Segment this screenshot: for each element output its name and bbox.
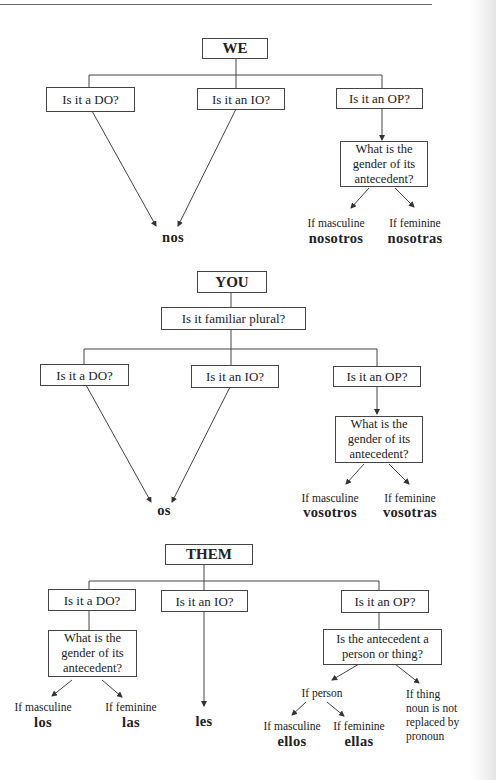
them-answer-los: los — [8, 714, 78, 730]
we-if-feminine: If feminine — [382, 217, 448, 230]
we-title-box: WE — [202, 38, 268, 59]
them-title: THEM — [186, 547, 232, 562]
you-familiar-question-box: Is it familiar plural? — [161, 307, 306, 330]
you-op-question-box: Is it an OP? — [333, 366, 421, 387]
them-op-question-box: Is it an OP? — [341, 590, 429, 613]
we-do-question-box: Is it a DO? — [46, 87, 135, 112]
you-answer-vosotras: vosotras — [377, 504, 443, 520]
them-op-question: Is it an OP? — [354, 594, 415, 609]
we-op-question-box: Is it an OP? — [336, 88, 423, 109]
you-do-question-box: Is it a DO? — [40, 364, 129, 386]
them-answer-ellos: ellos — [258, 733, 326, 749]
we-if-masculine: If masculine — [302, 217, 370, 230]
you-gender-question-box: What is the gender of its antecedent? — [335, 416, 423, 463]
we-answer-nos: nos — [150, 229, 196, 245]
them-io-question-box: Is it an IO? — [161, 590, 248, 612]
we-do-question: Is it a DO? — [62, 92, 119, 107]
them-answer-las: las — [98, 714, 164, 730]
we-gender-question-box: What is the gender of its antecedent? — [340, 141, 428, 187]
you-answer-vosotros: vosotros — [296, 504, 364, 520]
them-if-thing: If thing — [406, 688, 440, 701]
them-answer-les: les — [183, 713, 225, 729]
them-thing-note: noun is not replaced by pronoun — [406, 701, 459, 743]
you-familiar-question: Is it familiar plural? — [182, 311, 286, 326]
we-gender-question: What is the gender of its antecedent? — [353, 142, 415, 187]
them-do-question-box: Is it a DO? — [48, 589, 136, 611]
them-answer-ellas: ellas — [328, 733, 390, 749]
them-do-if-feminine: If feminine — [98, 701, 164, 714]
them-gender-question: What is the gender of its antecedent? — [61, 631, 123, 676]
you-op-question: Is it an OP? — [346, 369, 407, 384]
you-title-box: YOU — [197, 271, 267, 293]
you-io-question-box: Is it an IO? — [191, 365, 279, 388]
we-io-question: Is it an IO? — [212, 92, 270, 107]
them-op-if-masculine: If masculine — [258, 720, 326, 733]
them-gender-question-box: What is the gender of its antecedent? — [48, 630, 137, 677]
you-io-question: Is it an IO? — [206, 369, 264, 384]
we-answer-nosotros: nosotros — [302, 230, 370, 246]
we-answer-nosotras: nosotras — [382, 230, 448, 246]
you-title: YOU — [215, 275, 248, 290]
we-op-question: Is it an OP? — [349, 91, 410, 106]
them-do-question: Is it a DO? — [64, 593, 121, 608]
you-answer-os: os — [141, 502, 187, 518]
you-do-question: Is it a DO? — [56, 368, 113, 383]
them-op-if-feminine: If feminine — [328, 720, 390, 733]
them-title-box: THEM — [165, 544, 253, 565]
them-person-thing-question: Is the antecedent a person or thing? — [336, 632, 429, 662]
them-person-thing-question-box: Is the antecedent a person or thing? — [323, 629, 442, 665]
we-title: WE — [222, 41, 247, 56]
we-io-question-box: Is it an IO? — [197, 88, 285, 110]
you-gender-question: What is the gender of its antecedent? — [348, 417, 410, 462]
them-io-question: Is it an IO? — [175, 594, 233, 609]
them-do-if-masculine: If masculine — [8, 701, 78, 714]
them-if-person: If person — [292, 687, 352, 700]
